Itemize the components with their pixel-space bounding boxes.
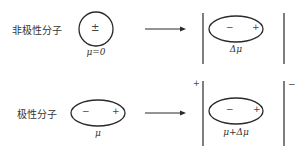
arrow-row1 bbox=[145, 27, 186, 32]
polar-negative-sign: − bbox=[82, 106, 90, 116]
permanent-moment-label: μ bbox=[82, 128, 114, 138]
polar-molecule-label: 极性分子 bbox=[17, 106, 57, 121]
plate-negative-sign: − bbox=[288, 79, 296, 89]
polarized-negative-sign: − bbox=[226, 104, 234, 114]
zero-moment-label: μ=0 bbox=[80, 47, 112, 57]
polarized-positive-sign: + bbox=[253, 104, 261, 114]
induced-positive-sign: + bbox=[252, 22, 260, 32]
induced-negative-sign: − bbox=[226, 22, 234, 32]
polar-positive-sign: + bbox=[112, 106, 120, 116]
plate-positive-sign: + bbox=[193, 79, 200, 88]
arrow-row2 bbox=[145, 111, 186, 116]
neutral-charge-sign: ± bbox=[91, 22, 99, 33]
nonpolar-molecule-label: 非极性分子 bbox=[12, 22, 62, 37]
total-moment-label: μ+Δμ bbox=[214, 127, 258, 137]
induced-moment-label: Δμ bbox=[220, 44, 252, 54]
